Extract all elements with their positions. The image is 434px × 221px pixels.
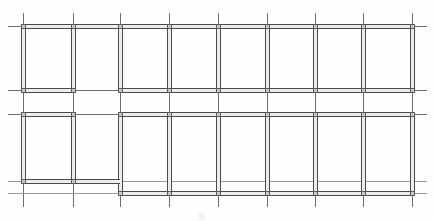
wall-v-d-lower xyxy=(167,114,172,193)
wall-v-i-lower xyxy=(410,114,415,193)
wall-v-f-upper xyxy=(265,26,270,90)
wall-v-i-upper xyxy=(410,26,415,90)
column-node xyxy=(21,179,26,184)
wall-v-a-lower xyxy=(21,114,26,181)
wall-v-b-lower xyxy=(71,114,76,181)
column-node xyxy=(410,24,415,29)
wall-v-b-upper xyxy=(71,26,76,90)
column-node xyxy=(313,88,318,93)
wall-h-mid-left xyxy=(23,88,73,93)
column-node xyxy=(313,112,318,117)
wall-v-e-upper xyxy=(216,26,221,90)
column-node xyxy=(265,24,270,29)
column-node xyxy=(167,112,172,117)
column-node xyxy=(361,191,366,196)
wall-v-f-lower xyxy=(265,114,270,193)
column-node xyxy=(313,191,318,196)
column-node xyxy=(71,24,76,29)
column-node xyxy=(410,112,415,117)
floor-plan-drawing: 图 xyxy=(0,0,434,221)
wall-v-g-lower xyxy=(313,114,318,193)
column-node xyxy=(410,191,415,196)
column-node xyxy=(216,24,221,29)
column-node xyxy=(21,112,26,117)
wall-v-h-upper xyxy=(361,26,366,90)
column-node xyxy=(265,112,270,117)
figure-caption: 图 xyxy=(0,211,434,221)
column-node xyxy=(361,88,366,93)
column-node xyxy=(118,191,123,196)
column-node xyxy=(216,112,221,117)
column-node xyxy=(71,179,76,184)
column-node xyxy=(216,191,221,196)
column-node xyxy=(21,88,26,93)
wall-v-h-lower xyxy=(361,114,366,193)
column-node xyxy=(216,88,221,93)
wall-v-e-lower xyxy=(216,114,221,193)
wall-v-a-upper xyxy=(21,26,26,90)
column-node xyxy=(313,24,318,29)
column-node xyxy=(361,112,366,117)
column-node xyxy=(361,24,366,29)
column-node xyxy=(118,88,123,93)
column-node xyxy=(167,191,172,196)
caption-figure-label: 图 xyxy=(198,213,206,220)
column-node xyxy=(410,88,415,93)
wall-v-g-upper xyxy=(313,26,318,90)
column-node xyxy=(21,24,26,29)
column-node xyxy=(167,88,172,93)
column-node xyxy=(118,24,123,29)
column-node xyxy=(71,112,76,117)
column-node xyxy=(71,88,76,93)
wall-v-d-upper xyxy=(167,26,172,90)
column-node xyxy=(167,24,172,29)
wall-h-corridor-left xyxy=(23,112,73,117)
wall-v-c-upper xyxy=(118,26,123,90)
column-node xyxy=(265,88,270,93)
column-node xyxy=(118,112,123,117)
column-node xyxy=(265,191,270,196)
